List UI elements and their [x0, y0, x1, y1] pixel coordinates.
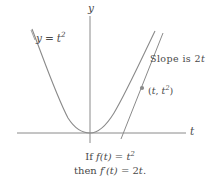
- caption1-lead: If: [85, 151, 96, 162]
- caption2-lead: then: [74, 165, 100, 176]
- slope-annotation-text: Slope is 2: [150, 53, 201, 64]
- caption2-equals: = 2: [118, 165, 139, 176]
- figure-caption: If f(t) = t2 then f′(t) = 2t.: [0, 147, 220, 178]
- caption1-argument: (t): [100, 151, 112, 162]
- t-axis-label: t: [190, 126, 194, 137]
- caption-line-1: If f(t) = t2: [0, 147, 220, 164]
- curve-label-y: y: [36, 32, 42, 44]
- parabola-curve: [32, 29, 155, 133]
- curve-label-exponent: 2: [61, 30, 66, 39]
- curve-equation-label: y=t2: [36, 31, 66, 43]
- y-axis-label: y: [88, 3, 94, 14]
- curve-label-equals: =: [45, 32, 54, 44]
- slope-annotation-variable: t: [201, 53, 205, 64]
- caption2-argument: (t): [106, 165, 118, 176]
- caption-line-2: then f′(t) = 2t.: [0, 164, 220, 178]
- point-label-close-paren: ): [170, 85, 174, 96]
- caption2-period: .: [143, 165, 146, 176]
- tangent-point-dot: [140, 86, 144, 90]
- caption1-equals: =: [112, 151, 127, 162]
- tangent-point-label: (t, t2): [148, 85, 173, 96]
- derivative-figure: y=t2 y t Slope is 2t (t, t2) If f(t) = t…: [0, 0, 220, 181]
- slope-annotation: Slope is 2t: [150, 54, 205, 64]
- caption1-exponent: 2: [130, 150, 134, 158]
